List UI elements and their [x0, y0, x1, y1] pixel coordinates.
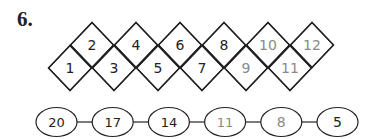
oval-value: 20 — [48, 115, 65, 130]
oval-cell: 20 — [36, 108, 77, 137]
diamond-value: 6 — [176, 37, 185, 53]
oval-value: 11 — [217, 115, 234, 130]
diamond-value: 10 — [259, 37, 277, 53]
oval-cell: 11 — [205, 108, 246, 137]
diamond-value: 7 — [198, 60, 207, 76]
oval-cell: 14 — [148, 108, 189, 137]
oval-value: 8 — [277, 114, 286, 130]
oval-cell: 5 — [317, 108, 358, 137]
oval-value: 5 — [333, 114, 342, 130]
oval-value: 14 — [161, 115, 178, 130]
oval-cell: 17 — [92, 108, 133, 137]
diamond-value: 5 — [154, 60, 163, 76]
number-pattern-figure: 123456789101112 2017141185 — [0, 0, 376, 139]
diamond-value: 4 — [132, 37, 141, 53]
diamond-pattern: 123456789101112 — [49, 23, 334, 91]
diamond-value: 12 — [303, 37, 321, 53]
oval-cell: 8 — [261, 108, 302, 137]
diamond-value: 2 — [88, 37, 97, 53]
diamond-value: 11 — [281, 60, 299, 76]
oval-chain: 2017141185 — [36, 108, 358, 137]
oval-value: 17 — [104, 115, 121, 130]
diamond-value: 9 — [242, 60, 251, 76]
diamond-value: 3 — [110, 60, 119, 76]
diamond-value: 1 — [66, 60, 75, 76]
diamond-value: 8 — [220, 37, 229, 53]
